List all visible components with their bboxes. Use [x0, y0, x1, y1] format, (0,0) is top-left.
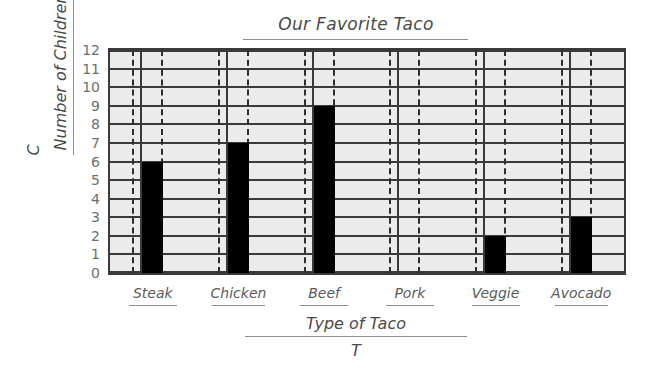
y-tick-label-11: 11 [74, 62, 100, 76]
y-axis-title: Number of Children [51, 0, 75, 167]
x-tick-label-pork: Pork [365, 285, 455, 301]
y-tick-label-5: 5 [74, 173, 100, 187]
x-axis-title: Type of Taco [236, 314, 476, 333]
y-tick-label-10: 10 [74, 80, 100, 94]
x-tick-label-veggie: Veggie [451, 285, 541, 301]
x-axis-variable-label: T [236, 341, 476, 360]
gridline-11 [110, 68, 624, 70]
y-tick-label-12: 12 [74, 43, 100, 57]
y-axis-title-underline [73, 0, 74, 155]
y-axis-variable: C [24, 138, 44, 162]
gridline-5 [110, 179, 624, 181]
x-tick-label-avocado: Avocado [536, 285, 626, 301]
plot-area [108, 48, 626, 275]
vertical-dashed-line-left-chicken [218, 50, 220, 273]
gridline-12 [110, 50, 624, 52]
vertical-solid-line-pork [397, 50, 399, 273]
y-tick-label-7: 7 [74, 136, 100, 150]
gridline-0 [110, 271, 624, 273]
x-tick-underline-chicken [212, 305, 265, 306]
gridline-3 [110, 216, 624, 218]
gridline-1 [110, 253, 624, 255]
vertical-dashed-line-left-beef [304, 50, 306, 273]
bar-steak [142, 162, 163, 274]
bar-chart: Our Favorite Taco C Number of Children 1… [0, 0, 652, 380]
chart-title-underline [243, 39, 468, 40]
y-tick-label-1: 1 [74, 247, 100, 261]
vertical-dashed-line-left-pork [389, 50, 391, 273]
gridline-7 [110, 142, 624, 144]
x-tick-underline-veggie [472, 305, 520, 306]
x-tick-underline-beef [300, 305, 348, 306]
gridline-6 [110, 161, 624, 163]
y-axis-title-label: Number of Children [51, 0, 70, 150]
x-tick-underline-pork [386, 305, 434, 306]
gridline-10 [110, 86, 624, 88]
gridline-4 [110, 198, 624, 200]
gridline-8 [110, 123, 624, 125]
vertical-dashed-line-right-pork [418, 50, 420, 273]
y-tick-label-3: 3 [74, 210, 100, 224]
x-tick-label-beef: Beef [279, 285, 369, 301]
y-tick-label-8: 8 [74, 117, 100, 131]
x-tick-underline-steak [129, 305, 177, 306]
x-tick-label-steak: Steak [108, 285, 198, 301]
x-tick-label-chicken: Chicken [194, 285, 284, 301]
gridline-9 [110, 105, 624, 107]
bar-beef [314, 106, 335, 273]
bar-chicken [228, 143, 249, 273]
y-tick-label-2: 2 [74, 229, 100, 243]
y-tick-label-9: 9 [74, 99, 100, 113]
vertical-dashed-line-left-avocado [561, 50, 563, 273]
y-tick-label-0: 0 [74, 266, 100, 280]
y-tick-label-6: 6 [74, 155, 100, 169]
y-tick-label-4: 4 [74, 192, 100, 206]
chart-title: Our Favorite Taco [236, 14, 476, 34]
gridline-2 [110, 235, 624, 237]
vertical-dashed-line-left-veggie [475, 50, 477, 273]
bar-veggie [485, 236, 506, 273]
x-tick-underline-avocado [555, 305, 608, 306]
bar-avocado [571, 217, 592, 273]
x-axis-title-underline [245, 336, 467, 337]
y-axis-variable-label: C [24, 144, 43, 155]
vertical-dashed-line-left-steak [132, 50, 134, 273]
